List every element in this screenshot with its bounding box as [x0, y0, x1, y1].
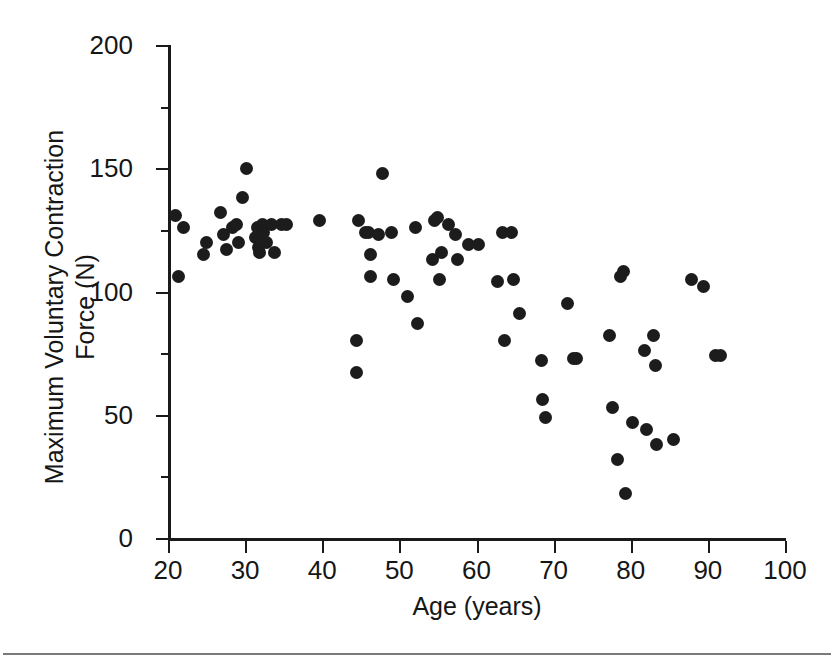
data-point — [268, 246, 281, 259]
data-point — [200, 236, 213, 249]
data-point — [513, 307, 526, 320]
data-point — [539, 411, 552, 424]
data-point — [626, 416, 639, 429]
data-point — [177, 221, 190, 234]
data-point — [697, 280, 710, 293]
x-axis-tick-label: 100 — [740, 557, 830, 583]
data-point — [350, 334, 363, 347]
data-point — [472, 238, 485, 251]
data-point — [376, 167, 389, 180]
data-point — [169, 209, 182, 222]
data-point — [372, 228, 385, 241]
data-point — [214, 206, 227, 219]
y-axis-tick-label: 150 — [13, 155, 133, 181]
data-point — [685, 273, 698, 286]
y-axis-minor-tick — [161, 107, 168, 109]
data-point — [236, 191, 249, 204]
data-point — [535, 354, 548, 367]
data-point — [364, 248, 377, 261]
data-point — [619, 487, 632, 500]
data-point — [638, 344, 651, 357]
data-point — [451, 253, 464, 266]
y-axis-minor-tick — [161, 353, 168, 355]
data-point — [401, 290, 414, 303]
data-point — [491, 275, 504, 288]
data-point — [220, 243, 233, 256]
data-point — [606, 401, 619, 414]
x-axis-tick — [785, 541, 787, 553]
y-axis-tick — [156, 45, 168, 47]
data-point — [435, 246, 448, 259]
data-point — [449, 228, 462, 241]
data-point — [387, 273, 400, 286]
data-point — [498, 334, 511, 347]
data-point — [617, 265, 630, 278]
data-point — [667, 433, 680, 446]
data-point — [232, 236, 245, 249]
data-point — [650, 438, 663, 451]
y-axis-tick — [156, 415, 168, 417]
y-axis-minor-tick — [161, 476, 168, 478]
data-point — [230, 218, 243, 231]
data-point — [649, 359, 662, 372]
y-axis-tick-label: 200 — [13, 32, 133, 58]
data-point — [647, 329, 660, 342]
x-axis-tick — [399, 541, 401, 553]
x-axis-tick — [477, 541, 479, 553]
data-point — [536, 393, 549, 406]
x-axis-tick — [245, 541, 247, 553]
data-point — [197, 248, 210, 261]
data-point — [409, 221, 422, 234]
data-point — [313, 214, 326, 227]
plot-area: 050100150200 2030405060708090100 — [168, 45, 785, 540]
data-point — [714, 349, 727, 362]
data-point — [364, 270, 377, 283]
data-point — [411, 317, 424, 330]
data-point — [352, 214, 365, 227]
x-axis-tick — [708, 541, 710, 553]
y-axis-tick — [156, 292, 168, 294]
y-axis-label: Maximum Voluntary Contraction Force (N) — [39, 47, 101, 567]
y-axis-tick — [156, 168, 168, 170]
scatter-plot-figure: Maximum Voluntary Contraction Force (N) … — [0, 0, 833, 671]
x-axis-tick — [554, 541, 556, 553]
data-point — [240, 162, 253, 175]
y-axis-tick-label: 0 — [13, 525, 133, 551]
data-point — [385, 226, 398, 239]
data-point — [507, 273, 520, 286]
x-axis-tick — [168, 541, 170, 553]
data-point — [350, 366, 363, 379]
y-axis-line — [168, 45, 171, 541]
x-axis-tick — [631, 541, 633, 553]
y-axis-tick-label: 50 — [13, 402, 133, 428]
data-point — [640, 423, 653, 436]
data-point — [570, 352, 583, 365]
data-point — [603, 329, 616, 342]
y-axis-tick — [156, 538, 168, 540]
x-axis-tick — [322, 541, 324, 553]
data-point — [611, 453, 624, 466]
data-point — [433, 273, 446, 286]
y-axis-tick-label: 100 — [13, 279, 133, 305]
y-axis-minor-tick — [161, 230, 168, 232]
footer-divider — [3, 653, 831, 655]
data-point — [280, 218, 293, 231]
x-axis-label: Age (years) — [168, 592, 786, 621]
data-point — [505, 226, 518, 239]
data-point — [172, 270, 185, 283]
data-point — [561, 297, 574, 310]
